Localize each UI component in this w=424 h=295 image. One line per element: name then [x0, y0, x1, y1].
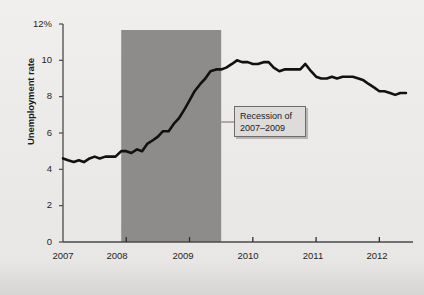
chart-plot-area [0, 0, 424, 295]
recession-band [121, 30, 221, 242]
annotation-line-1: Recession of [240, 110, 301, 122]
recession-annotation-box: Recession of 2007–2009 [234, 106, 306, 137]
annotation-line-2: 2007–2009 [240, 122, 301, 134]
chart-figure: Unemployment rate 12% 10 8 6 4 2 0 2007 … [0, 0, 424, 295]
